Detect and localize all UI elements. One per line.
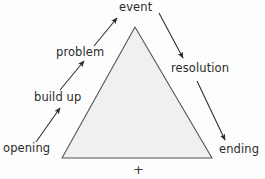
stage-label-opening: opening bbox=[3, 142, 50, 155]
arrow-event-to-resolution bbox=[159, 13, 183, 58]
story-mountain-diagram: opening build up problem event resolutio… bbox=[0, 0, 265, 179]
arrow-resolution-to-ending bbox=[197, 81, 225, 140]
stage-label-resolution: resolution bbox=[171, 62, 229, 75]
arrow-problem-to-event bbox=[94, 18, 117, 46]
plus-mark: + bbox=[133, 163, 144, 176]
stage-label-event: event bbox=[119, 1, 152, 14]
arrow-buildup-to-problem bbox=[60, 61, 84, 90]
stage-label-problem: problem bbox=[56, 46, 104, 59]
stage-label-build-up: build up bbox=[34, 91, 81, 104]
arrow-opening-to-buildup bbox=[36, 108, 60, 142]
stage-label-ending: ending bbox=[219, 143, 259, 156]
